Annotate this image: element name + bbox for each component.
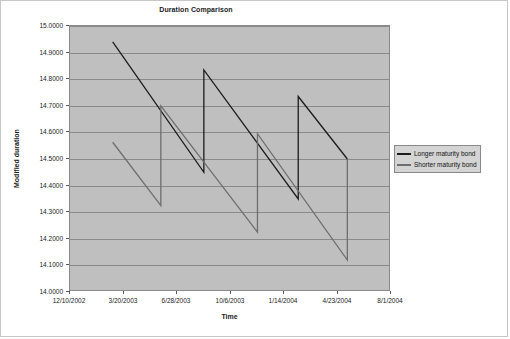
y-tick-mark — [66, 238, 69, 239]
legend-swatch-longer-icon — [397, 153, 411, 155]
y-tick-label: 14.2000 — [5, 234, 63, 241]
y-tick-label: 14.3000 — [5, 208, 63, 215]
y-tick-label: 14.0000 — [5, 288, 63, 295]
y-tick-mark — [66, 52, 69, 53]
legend-label-longer: Longer maturity bond — [414, 150, 475, 157]
y-tick-label: 14.8000 — [5, 75, 63, 82]
x-tick-mark — [176, 291, 177, 294]
plot-area — [69, 25, 390, 291]
legend-label-shorter: Shorter maturity bond — [414, 161, 477, 168]
series-line — [113, 42, 348, 199]
y-tick-mark — [66, 78, 69, 79]
series-layer — [70, 26, 391, 292]
y-tick-label: 14.6000 — [5, 128, 63, 135]
x-tick-mark — [69, 291, 70, 294]
y-tick-mark — [66, 131, 69, 132]
y-tick-mark — [66, 158, 69, 159]
x-tick-mark — [390, 291, 391, 294]
y-tick-mark — [66, 264, 69, 265]
y-tick-mark — [66, 185, 69, 186]
x-tick-mark — [123, 291, 124, 294]
y-tick-mark — [66, 211, 69, 212]
x-axis-title: Time — [69, 313, 390, 320]
chart-legend: Longer maturity bond Shorter maturity bo… — [394, 145, 481, 173]
chart-frame: Duration Comparison Modified duration 15… — [0, 0, 508, 337]
y-tick-mark — [66, 25, 69, 26]
legend-item-shorter[interactable]: Shorter maturity bond — [397, 159, 477, 170]
chart-title: Duration Comparison — [1, 6, 391, 13]
x-tick-mark — [337, 291, 338, 294]
y-tick-label: 14.4000 — [5, 181, 63, 188]
y-tick-label: 14.1000 — [5, 261, 63, 268]
y-tick-label: 14.7000 — [5, 101, 63, 108]
series-line — [113, 106, 348, 260]
x-tick-label: 8/1/2004 — [355, 297, 425, 304]
y-tick-label: 14.9000 — [5, 48, 63, 55]
x-tick-mark — [283, 291, 284, 294]
y-tick-label: 15.0000 — [5, 22, 63, 29]
y-tick-label: 14.5000 — [5, 155, 63, 162]
x-tick-mark — [230, 291, 231, 294]
legend-swatch-shorter-icon — [397, 164, 411, 166]
legend-item-longer[interactable]: Longer maturity bond — [397, 148, 477, 159]
y-tick-mark — [66, 105, 69, 106]
